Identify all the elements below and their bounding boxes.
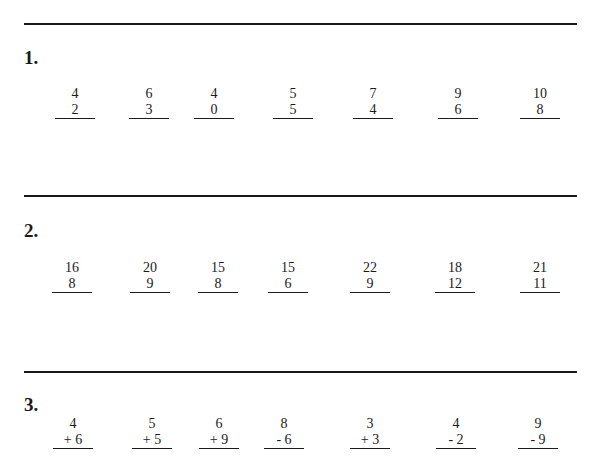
problem-top-number: 3: [350, 416, 390, 432]
problem: 108: [520, 86, 560, 119]
problem-top-number: 20: [130, 260, 170, 276]
problem-top-number: 18: [435, 260, 475, 276]
problem: 40: [194, 86, 234, 119]
problem: 6+ 9: [199, 416, 239, 449]
problem-top-number: 4: [194, 86, 234, 102]
problem: 156: [268, 260, 308, 293]
problem: 42: [55, 86, 95, 119]
problem-bottom-number: 8: [52, 276, 92, 293]
problem: 168: [52, 260, 92, 293]
problem-bottom-number: 2: [55, 102, 95, 119]
problem-top-number: 10: [520, 86, 560, 102]
problem-bottom-number: + 5: [132, 432, 172, 449]
problem-bottom-number: 3: [129, 102, 169, 119]
problem: 63: [129, 86, 169, 119]
problem: 55: [273, 86, 313, 119]
problem: 2111: [520, 260, 560, 293]
problem: 158: [198, 260, 238, 293]
section-2-label: 2.: [24, 220, 38, 242]
problem-bottom-number: + 6: [53, 432, 93, 449]
problem: 9- 9: [518, 416, 558, 449]
problem-bottom-number: 8: [520, 102, 560, 119]
problem-top-number: 21: [520, 260, 560, 276]
problem: 96: [438, 86, 478, 119]
problem-top-number: 5: [132, 416, 172, 432]
problem-top-number: 9: [518, 416, 558, 432]
problem-top-number: 7: [353, 86, 393, 102]
problem-bottom-number: 6: [438, 102, 478, 119]
problem-bottom-number: 5: [273, 102, 313, 119]
problem: 4+ 6: [53, 416, 93, 449]
problem-top-number: 22: [350, 260, 390, 276]
problem-top-number: 4: [55, 86, 95, 102]
section-3-divider: [24, 371, 577, 373]
problem-top-number: 4: [53, 416, 93, 432]
problem-bottom-number: + 3: [350, 432, 390, 449]
problem: 3+ 3: [350, 416, 390, 449]
problem-top-number: 6: [199, 416, 239, 432]
problem: 4- 2: [436, 416, 476, 449]
problem-bottom-number: - 6: [264, 432, 304, 449]
problem: 5+ 5: [132, 416, 172, 449]
problem-top-number: 9: [438, 86, 478, 102]
problem: 1812: [435, 260, 475, 293]
section-2-divider: [24, 195, 577, 197]
problem-top-number: 15: [268, 260, 308, 276]
problem: 74: [353, 86, 393, 119]
problem: 209: [130, 260, 170, 293]
section-3-label: 3.: [24, 394, 38, 416]
section-1-label: 1.: [24, 47, 38, 69]
problem-top-number: 5: [273, 86, 313, 102]
problem-bottom-number: 12: [435, 276, 475, 293]
problem-bottom-number: 0: [194, 102, 234, 119]
problem: 8- 6: [264, 416, 304, 449]
problem-top-number: 15: [198, 260, 238, 276]
problem-bottom-number: 9: [130, 276, 170, 293]
problem: 229: [350, 260, 390, 293]
problem-bottom-number: 9: [350, 276, 390, 293]
problem-top-number: 4: [436, 416, 476, 432]
problem-top-number: 16: [52, 260, 92, 276]
problem-top-number: 8: [264, 416, 304, 432]
section-1-divider: [24, 23, 577, 25]
problem-bottom-number: 8: [198, 276, 238, 293]
problem-bottom-number: - 9: [518, 432, 558, 449]
problem-bottom-number: 4: [353, 102, 393, 119]
problem-bottom-number: - 2: [436, 432, 476, 449]
problem-top-number: 6: [129, 86, 169, 102]
problem-bottom-number: + 9: [199, 432, 239, 449]
problem-bottom-number: 11: [520, 276, 560, 293]
problem-bottom-number: 6: [268, 276, 308, 293]
